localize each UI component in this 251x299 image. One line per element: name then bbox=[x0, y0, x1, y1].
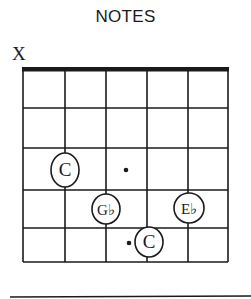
note-label: E♭ bbox=[181, 201, 197, 217]
note-label: C bbox=[59, 159, 72, 180]
note-label: C bbox=[143, 231, 156, 252]
nut bbox=[22, 67, 229, 72]
bottom-rule bbox=[10, 296, 251, 297]
chord-diagram: CG♭E♭C bbox=[0, 0, 251, 299]
note-label: G♭ bbox=[97, 202, 115, 218]
dot-marker bbox=[127, 241, 132, 246]
dot-marker bbox=[124, 168, 129, 173]
